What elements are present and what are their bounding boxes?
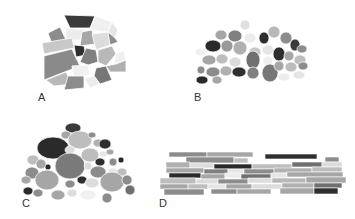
angular-fragments-illustration — [0, 0, 180, 110]
panel-c: C — [0, 110, 170, 219]
panel-label-c: C — [22, 197, 30, 209]
panel-d: D — [155, 140, 355, 219]
rounded-cobbles-illustration — [175, 0, 355, 110]
platy-slabs-illustration — [155, 140, 355, 219]
panel-b: B — [175, 0, 355, 110]
panel-a: A — [0, 0, 180, 110]
panel-label-b: B — [194, 91, 201, 103]
panel-label-a: A — [38, 91, 45, 103]
panel-label-d: D — [159, 197, 167, 209]
